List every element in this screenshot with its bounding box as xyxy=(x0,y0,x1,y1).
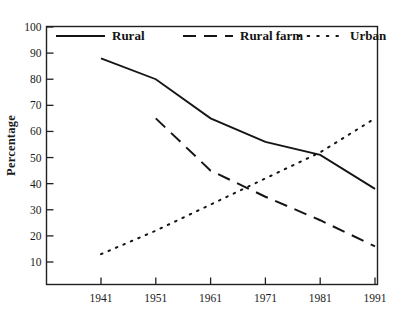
legend-label-urban: Urban xyxy=(350,28,387,43)
y-tick-label: 20 xyxy=(30,230,42,242)
y-tick-label: 50 xyxy=(30,152,42,164)
y-tick-label: 100 xyxy=(24,21,42,33)
x-axis-tick-labels: 194119511961197119811991 xyxy=(90,292,387,304)
chart-plot: 102030405060708090100 194119511961197119… xyxy=(0,0,401,320)
plot-frame xyxy=(47,27,378,285)
x-tick-label: 1951 xyxy=(144,292,167,304)
y-tick-label: 60 xyxy=(30,125,42,137)
x-tick-label: 1941 xyxy=(90,292,113,304)
y-axis-tick-labels: 102030405060708090100 xyxy=(24,21,42,268)
x-tick-label: 1991 xyxy=(364,292,387,304)
y-tick-label: 70 xyxy=(30,99,42,111)
y-tick-label: 30 xyxy=(30,204,42,216)
y-tick-label: 90 xyxy=(30,47,42,59)
x-tick-label: 1981 xyxy=(309,292,332,304)
x-tick-label: 1971 xyxy=(254,292,277,304)
y-tick-label: 10 xyxy=(30,256,42,268)
y-tick-label: 40 xyxy=(30,178,42,190)
legend-label-rural: Rural xyxy=(112,28,145,43)
chart-container: Percentage 102030405060708090100 1941195… xyxy=(0,0,401,320)
x-tick-label: 1961 xyxy=(199,292,222,304)
y-tick-label: 80 xyxy=(30,73,42,85)
legend-label-rural-farm: Rural farm xyxy=(240,28,303,43)
